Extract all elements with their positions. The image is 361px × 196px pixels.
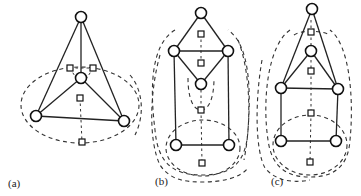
dual-vertex-square-a xyxy=(79,139,85,145)
dual-vertex-square-b xyxy=(198,60,204,66)
dual-graph-figure: (a) (b) (c) xyxy=(0,0,361,196)
graph-vertex-a xyxy=(31,111,42,122)
graph-vertex-b xyxy=(223,46,234,57)
dual-edge-a xyxy=(80,98,82,142)
panel-label-b: (b) xyxy=(155,175,168,188)
graph-vertex-a xyxy=(76,73,87,84)
graph-vertex-c xyxy=(276,136,287,147)
dual-vertex-square-b xyxy=(198,107,204,113)
dual-loop-c xyxy=(257,60,310,181)
context-dual-arc xyxy=(130,75,141,135)
graph-vertex-a xyxy=(76,12,87,23)
graph-vertex-a xyxy=(119,116,130,127)
graph-edge-b xyxy=(174,13,201,51)
graph-edge-c xyxy=(281,88,338,89)
graph-edge-a xyxy=(36,116,124,121)
graph-vertex-c xyxy=(276,83,287,94)
dual-vertex-square-c xyxy=(308,29,314,35)
dual-vertex-square-a xyxy=(90,65,96,71)
graph-edge-c xyxy=(281,51,311,88)
graph-edge-c xyxy=(311,51,338,89)
dual-loops xyxy=(21,30,351,182)
dual-vertex-square-b xyxy=(198,31,204,37)
graph-edge-a xyxy=(81,78,124,121)
dual-vertex-square-a xyxy=(67,65,73,71)
graph-edge-a xyxy=(36,78,81,116)
dual-vertex-square-a xyxy=(77,95,83,101)
graph-vertex-b xyxy=(196,79,207,90)
dual-vertex-square-b xyxy=(199,160,205,166)
graph-vertex-b xyxy=(169,46,180,57)
panel-labels: (a) (b) (c) xyxy=(8,175,284,190)
panel-label-c: (c) xyxy=(271,175,284,188)
graph-vertex-b xyxy=(171,140,182,151)
graph-edge-b xyxy=(228,51,229,145)
graph-edge-c xyxy=(336,89,338,141)
graph-edge-a xyxy=(36,17,81,116)
graph-vertex-c xyxy=(307,4,318,15)
graph-vertex-c xyxy=(333,84,344,95)
graph-edge-a xyxy=(81,17,124,121)
dual-edge-c xyxy=(310,113,311,162)
graph-edge-b xyxy=(201,13,228,51)
graph-edge-b xyxy=(201,51,228,84)
dual-vertex-square-c xyxy=(308,68,314,74)
graph-vertex-c xyxy=(331,136,342,147)
dual-vertex-square-c xyxy=(307,159,313,165)
dual-edge-b xyxy=(201,110,202,163)
graph-vertex-c xyxy=(306,46,317,57)
graph-vertex-b xyxy=(224,140,235,151)
dual-vertex-square-c xyxy=(308,110,314,116)
graph-vertex-b xyxy=(196,8,207,19)
panel-label-a: (a) xyxy=(8,177,21,190)
